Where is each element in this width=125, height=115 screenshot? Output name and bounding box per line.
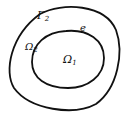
outer-region-label: Ω2 — [24, 41, 38, 54]
inner-region-label: Ω1 — [62, 53, 77, 67]
domain-diagram: Γ2 e Ω2 Ω1 — [0, 0, 125, 115]
inner-boundary-label: e — [80, 22, 86, 33]
